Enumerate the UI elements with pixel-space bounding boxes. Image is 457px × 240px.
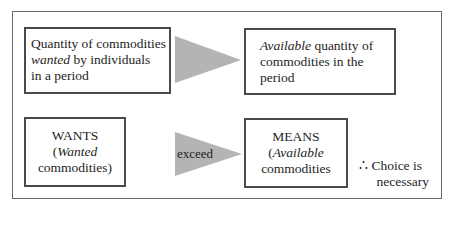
- means-text: MEANS (Available commodities: [244, 129, 348, 177]
- text-line: commodities): [24, 160, 126, 176]
- text-line: MEANS: [244, 129, 348, 145]
- wanted-quantity-text: Quantity of commodities wanted by indivi…: [31, 36, 166, 84]
- conclusion-text: ∴ Choice is necessary: [359, 158, 429, 190]
- text-line: (Wanted: [24, 144, 126, 160]
- text-line: (Available: [244, 145, 348, 161]
- text-span: quantity of: [311, 38, 373, 53]
- text-span: by individuals: [70, 52, 150, 67]
- text-line: period: [260, 70, 373, 86]
- italic-word: wanted: [31, 52, 70, 67]
- text-line: ∴ Choice is: [359, 158, 429, 174]
- arrow-right-icon: [175, 36, 243, 84]
- italic-word: Wanted: [57, 144, 97, 159]
- text-line: Available quantity of: [260, 38, 373, 54]
- text-line: commodities in the: [260, 54, 373, 70]
- italic-word: Available: [273, 145, 324, 160]
- text-line: necessary: [359, 174, 429, 190]
- text-line: WANTS: [24, 128, 126, 144]
- available-quantity-text: Available quantity of commodities in the…: [260, 38, 373, 86]
- italic-word: Available: [260, 38, 311, 53]
- text-line: wanted by individuals: [31, 52, 166, 68]
- text-line: commodities: [244, 161, 348, 177]
- text-line: Quantity of commodities: [31, 36, 166, 52]
- wants-text: WANTS (Wanted commodities): [24, 128, 126, 176]
- exceed-label: exceed: [177, 146, 213, 162]
- text-line: in a period: [31, 68, 166, 84]
